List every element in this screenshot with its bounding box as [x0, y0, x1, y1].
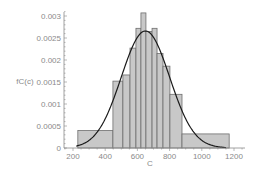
y-tick-label: 0.0025: [37, 34, 62, 43]
y-tick-label: 0.001: [41, 100, 62, 109]
histogram-bar: [78, 130, 113, 148]
y-tick-label: 0.0005: [37, 122, 62, 131]
y-axis-label: fC(c): [16, 77, 34, 86]
histogram-bar: [130, 48, 136, 148]
y-axis-ticks: 00.00050.0010.00150.0020.00250.003: [37, 12, 62, 153]
y-tick-label: 0.002: [41, 56, 62, 65]
y-tick-label: 0.0015: [37, 78, 62, 87]
x-axis-ticks: 20040060080010001200: [66, 152, 243, 161]
x-tick-label: 200: [66, 152, 80, 161]
histogram-bar: [123, 75, 130, 148]
x-tick-label: 1200: [225, 152, 243, 161]
histogram-bar: [163, 66, 170, 148]
x-tick-label: 600: [131, 152, 145, 161]
histogram-bar: [182, 134, 229, 148]
histogram-bar: [170, 94, 182, 148]
histogram-bar: [136, 28, 141, 148]
x-axis-label: C: [147, 159, 153, 168]
y-tick-label: 0.003: [41, 12, 62, 21]
histogram-bar: [157, 53, 163, 148]
x-tick-label: 800: [163, 152, 177, 161]
histogram-bar: [141, 13, 146, 148]
histogram-bar: [146, 31, 152, 148]
x-tick-label: 1000: [193, 152, 211, 161]
histogram-chart: 20040060080010001200 00.00050.0010.00150…: [0, 0, 255, 172]
histogram-bar: [152, 28, 157, 148]
histogram-bar: [113, 81, 123, 148]
y-tick-label: 0: [57, 144, 62, 153]
x-tick-label: 400: [99, 152, 113, 161]
